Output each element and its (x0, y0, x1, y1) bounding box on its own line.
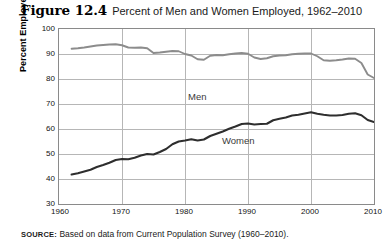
figure-caption: Percent of Men and Women Employed, 1962–… (112, 5, 362, 17)
page-title: Figure 12.4Percent of Men and Women Empl… (21, 2, 362, 19)
source-note: SOURCE: Based on data from Current Popul… (21, 229, 289, 240)
series-plot (59, 29, 374, 204)
x-tick-label: 1990 (227, 208, 267, 216)
x-tick-label: 2000 (290, 208, 330, 216)
plot-area (58, 28, 375, 205)
y-tick-label: 50 (27, 150, 55, 158)
x-tick-label: 1980 (164, 208, 204, 216)
y-tick-label: 90 (27, 50, 55, 58)
chart-container: Percent Employed 100 90 80 70 60 50 40 3… (0, 20, 391, 215)
y-tick-label: 100 (27, 25, 55, 33)
y-tick-label: 70 (27, 100, 55, 108)
source-text: Based on data from Current Population Su… (59, 229, 288, 239)
y-axis-title: Percent Employed (18, 0, 28, 72)
series-label-men: Men (188, 91, 206, 102)
y-tick-label: 60 (27, 125, 55, 133)
x-tick-label: 1960 (40, 208, 80, 216)
x-tick-label: 2010 (353, 208, 391, 216)
y-tick-label: 80 (27, 75, 55, 83)
figure-number: Figure 12.4 (21, 2, 107, 18)
line-series-men (72, 44, 374, 78)
series-label-women: Women (222, 135, 255, 146)
y-tick-label: 40 (27, 175, 55, 183)
source-label: SOURCE: (21, 230, 57, 239)
x-tick-label: 1970 (101, 208, 141, 216)
